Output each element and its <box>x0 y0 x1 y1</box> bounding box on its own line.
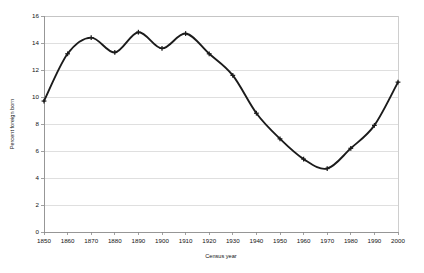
x-tick-label: 1880 <box>108 237 122 244</box>
x-tick-label: 1960 <box>297 237 311 244</box>
x-tick-label: 1870 <box>84 237 98 244</box>
x-tick-label: 1910 <box>179 237 193 244</box>
y-tick-label: 16 <box>32 12 39 19</box>
x-tick-label: 1890 <box>132 237 146 244</box>
y-tick-label: 10 <box>32 93 39 100</box>
y-tick-label: 8 <box>36 120 40 127</box>
x-tick-label: 1970 <box>320 237 334 244</box>
y-tick-label: 6 <box>36 147 40 154</box>
x-tick-label: 1930 <box>226 237 240 244</box>
x-tick-label: 1940 <box>250 237 264 244</box>
line-chart: 0246810121416 18501860187018801890190019… <box>0 0 424 273</box>
x-tick-label: 2000 <box>391 237 405 244</box>
y-tick-label: 12 <box>32 66 39 73</box>
chart-container: 0246810121416 18501860187018801890190019… <box>0 0 424 273</box>
x-tick-label: 1950 <box>273 237 287 244</box>
y-tick-label: 2 <box>36 201 40 208</box>
x-tick-label: 1900 <box>155 237 169 244</box>
x-axis-title: Census year <box>205 253 237 259</box>
y-axis-title: Percent foreign born <box>9 99 15 150</box>
y-tick-label: 14 <box>32 39 39 46</box>
x-tick-label: 1920 <box>202 237 216 244</box>
x-tick-label: 1850 <box>37 237 51 244</box>
x-tick-label: 1980 <box>344 237 358 244</box>
y-tick-label: 0 <box>36 228 40 235</box>
x-tick-label: 1860 <box>61 237 75 244</box>
y-tick-label: 4 <box>36 174 40 181</box>
x-tick-label: 1990 <box>368 237 382 244</box>
